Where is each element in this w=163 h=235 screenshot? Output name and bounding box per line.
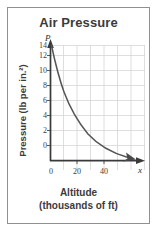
x-axis-title: Altitude (thousands of ft) <box>7 186 150 212</box>
y-tick-label: 4 <box>33 111 47 120</box>
y-axis-variable-label: P <box>45 33 51 43</box>
x-axis-title-line1: Altitude <box>60 187 97 198</box>
y-tick-label: 6 <box>33 96 47 105</box>
y-axis-title: Pressure (lb per in.²) <box>17 53 28 169</box>
y-tick-label: 12 <box>33 51 47 60</box>
x-tick-label: 0 <box>41 167 61 176</box>
air-pressure-curve <box>52 46 137 162</box>
x-tick-label: 20 <box>67 167 87 176</box>
x-axis-variable-label: x <box>138 165 142 175</box>
y-axis-ticks <box>47 56 50 146</box>
x-axis-title-line2: (thousands of ft) <box>7 199 150 212</box>
y-tick-label: 10 <box>33 66 47 75</box>
y-tick-label: 0 <box>33 141 47 150</box>
vertical-gridlines <box>64 45 145 170</box>
air-pressure-figure: Air Pressure <box>0 0 163 235</box>
y-tick-label: 2 <box>33 126 47 135</box>
y-axis <box>47 39 54 161</box>
x-tick-label: 40 <box>94 167 114 176</box>
y-tick-label: 8 <box>33 81 47 90</box>
